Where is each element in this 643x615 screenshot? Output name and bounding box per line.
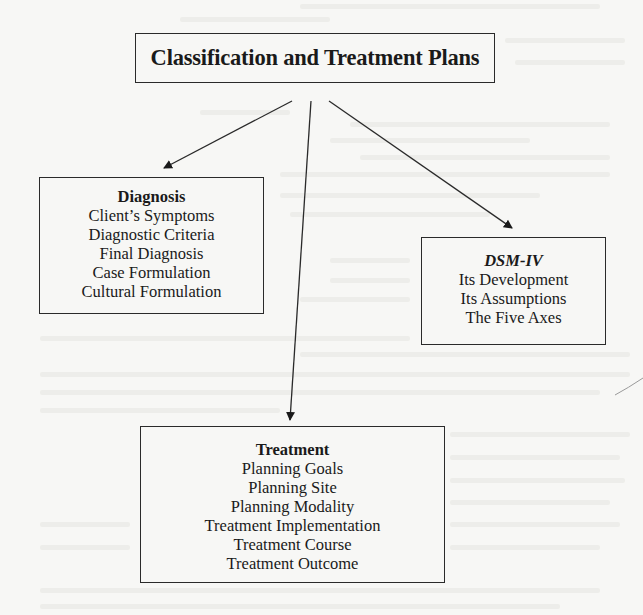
dsm-iv-item: Its Development xyxy=(422,270,605,289)
treatment-heading: Treatment xyxy=(141,440,444,459)
treatment-item: Treatment Implementation xyxy=(141,516,444,535)
arrow-to-dsm xyxy=(329,101,512,228)
title-box: Classification and Treatment Plans xyxy=(135,33,495,83)
diagnosis-item: Case Formulation xyxy=(40,263,263,282)
diagnosis-item: Client’s Symptoms xyxy=(40,206,263,225)
dsm-iv-item: The Five Axes xyxy=(422,308,605,327)
diagnosis-item: Diagnostic Criteria xyxy=(40,225,263,244)
treatment-item: Treatment Outcome xyxy=(141,554,444,573)
dsm-iv-item: Its Assumptions xyxy=(422,289,605,308)
treatment-item: Planning Site xyxy=(141,478,444,497)
diagnosis-heading: Diagnosis xyxy=(40,187,263,206)
treatment-item: Treatment Course xyxy=(141,535,444,554)
treatment-box: Treatment Planning Goals Planning Site P… xyxy=(140,426,445,583)
dsm-iv-box: DSM-IV Its Development Its Assumptions T… xyxy=(421,237,606,345)
treatment-item: Planning Modality xyxy=(141,497,444,516)
arrow-to-treatment xyxy=(290,101,311,420)
dsm-iv-heading: DSM-IV xyxy=(422,251,605,270)
diagnosis-item: Cultural Formulation xyxy=(40,282,263,301)
diagram-title: Classification and Treatment Plans xyxy=(151,45,480,71)
arrow-to-diagnosis xyxy=(164,101,292,168)
treatment-item: Planning Goals xyxy=(141,459,444,478)
diagnosis-box: Diagnosis Client’s Symptoms Diagnostic C… xyxy=(39,177,264,314)
diagnosis-item: Final Diagnosis xyxy=(40,244,263,263)
page-curl-mark xyxy=(615,378,643,395)
